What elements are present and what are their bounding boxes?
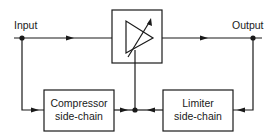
input-label: Input <box>14 19 37 31</box>
limiter-label-line1: Limiter <box>182 97 214 109</box>
block-diagram: Input Output Compressor side-chain Li <box>0 0 273 138</box>
amplifier-block <box>112 10 162 63</box>
amp-to-output-line <box>162 36 262 41</box>
compressor-sidechain-block: Compressor side-chain <box>44 90 114 131</box>
output-to-limiter-line <box>233 38 253 113</box>
limiter-to-control-line <box>135 108 163 113</box>
compressor-label-line1: Compressor <box>50 97 108 109</box>
limiter-sidechain-block: Limiter side-chain <box>163 90 233 131</box>
output-label: Output <box>232 19 264 31</box>
compressor-label-line2: side-chain <box>55 110 103 122</box>
control-junction-dot <box>132 107 137 112</box>
input-to-amp-line <box>14 36 112 41</box>
input-to-compressor-line <box>22 38 44 113</box>
limiter-label-line2: side-chain <box>174 110 222 122</box>
compressor-to-control-line <box>114 108 135 113</box>
